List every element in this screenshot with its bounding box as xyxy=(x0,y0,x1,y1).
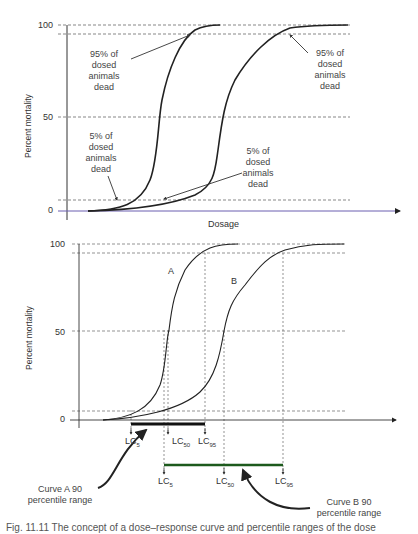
top-y-axis-label: Percent mortality xyxy=(23,94,33,158)
annotation-a5: 5% ofdosedanimalsdead xyxy=(79,131,123,175)
top-y-tick-100: 100 xyxy=(38,20,53,30)
figure-caption: Fig. 11.11 The concept of a dose–respons… xyxy=(6,522,376,533)
curve-a-lc5: LC5 xyxy=(125,436,140,448)
curve-a-lc50: LC50 xyxy=(172,436,190,448)
bottom-y-tick-50: 50 xyxy=(55,327,65,337)
dose-response-diagram xyxy=(0,0,418,534)
curve-b-lc5: LC5 xyxy=(158,476,173,488)
bottom-y-tick-100: 100 xyxy=(50,239,65,249)
annotation-b5: 5% ofdosedanimalsdead xyxy=(236,146,280,190)
curve-b-label: B xyxy=(231,276,237,286)
top-x-axis-label: Dosage xyxy=(208,219,239,229)
bottom-y-tick-0: 0 xyxy=(60,414,65,424)
top-y-tick-50: 50 xyxy=(43,112,53,122)
annotation-b95: 95% ofdosedanimalsdead xyxy=(308,48,352,92)
curve-b-range-label: Curve B 90percentile range xyxy=(308,497,390,519)
curve-a-lc95: LC95 xyxy=(198,436,216,448)
curve-a-label: A xyxy=(168,266,174,276)
curve-b-lc95: LC95 xyxy=(275,476,293,488)
top-y-tick-0: 0 xyxy=(48,205,53,215)
annotation-a95: 95% ofdosedanimalsdead xyxy=(82,49,126,93)
curve-a-range-label: Curve A 90percentile range xyxy=(22,484,98,506)
curve-b-lc50: LC50 xyxy=(216,476,234,488)
bottom-y-axis-label: Percent mortality xyxy=(24,306,34,370)
